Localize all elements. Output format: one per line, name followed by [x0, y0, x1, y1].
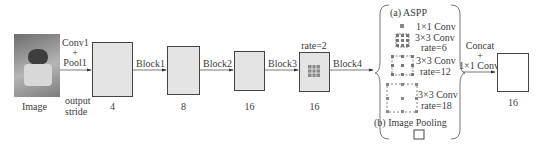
aspp-branch-1x1-line1: 1×1 Conv — [416, 21, 456, 32]
aspp-branch-rate6-line2: rate=6 — [421, 42, 447, 53]
aspp-title: (a) ASPP — [390, 7, 427, 18]
aspp-branch-rate12-line2: rate=12 — [420, 66, 451, 77]
kernel-overlay — [0, 0, 540, 151]
merge-conv-label: 1×1 Conv — [457, 60, 501, 71]
aspp-branch-rate12-line1: 3×3 Conv — [416, 55, 456, 66]
output-feature-map — [497, 53, 529, 92]
output-stride-value: 16 — [497, 97, 529, 108]
aspp-branch-rate18-line2: rate=18 — [421, 100, 452, 111]
aspp-branch-rate18-line1: 3×3 Conv — [418, 89, 458, 100]
image-pooling-label: (b) Image Pooling — [374, 117, 447, 128]
